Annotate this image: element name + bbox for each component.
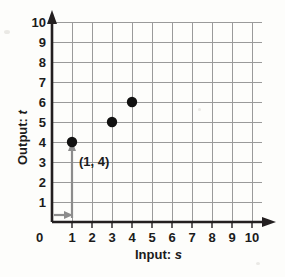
y-axis-title-prefix: Output: xyxy=(15,118,30,165)
y-tick-label-9: 9 xyxy=(26,36,46,49)
paper-speck xyxy=(256,262,260,265)
y-tick-label-10: 10 xyxy=(22,16,46,29)
x-tick-label-5: 5 xyxy=(142,231,162,244)
x-tick-label-3: 3 xyxy=(102,231,122,244)
x-tick-label-1: 1 xyxy=(62,231,82,244)
origin-tick-label-0: 0 xyxy=(36,231,43,244)
y-axis-title: Output: t xyxy=(16,110,29,165)
coordinate-plane-figure: 1 2 3 4 5 6 7 8 9 10 0 1 2 3 4 5 6 7 8 9… xyxy=(0,0,285,277)
x-tick-label-2: 2 xyxy=(82,231,102,244)
x-tick-label-6: 6 xyxy=(162,231,182,244)
point-annotation-label: (1, 4) xyxy=(79,155,109,168)
data-point-3-6[interactable] xyxy=(127,97,137,107)
x-tick-label-4: 4 xyxy=(122,231,142,244)
x-tick-label-8: 8 xyxy=(202,231,222,244)
y-axis-title-variable: t xyxy=(15,110,30,114)
y-tick-label-6: 6 xyxy=(26,96,46,109)
x-axis-title: Input: s xyxy=(135,248,182,261)
paper-speck xyxy=(198,108,201,111)
x-axis-title-variable: s xyxy=(175,247,182,262)
y-tick-label-8: 8 xyxy=(26,56,46,69)
y-tick-label-2: 2 xyxy=(26,176,46,189)
x-axis-title-prefix: Input: xyxy=(135,247,171,262)
data-point-1-4[interactable] xyxy=(67,137,77,147)
data-point-2-5[interactable] xyxy=(107,117,117,127)
y-tick-label-1: 1 xyxy=(26,196,46,209)
x-tick-label-9: 9 xyxy=(222,231,242,244)
y-tick-label-7: 7 xyxy=(26,76,46,89)
paper-speck xyxy=(4,30,10,34)
x-tick-label-10: 10 xyxy=(241,231,263,244)
x-tick-label-7: 7 xyxy=(182,231,202,244)
